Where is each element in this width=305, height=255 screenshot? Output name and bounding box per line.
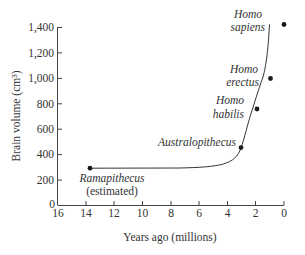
label-homo-sapiens-2: sapiens	[231, 21, 266, 34]
svg-text:10: 10	[137, 207, 149, 219]
label-homo-erectus-1: Homo	[229, 63, 258, 75]
svg-text:0: 0	[281, 207, 287, 219]
svg-text:12: 12	[108, 207, 120, 219]
svg-text:600: 600	[37, 123, 55, 135]
point-homo-erectus	[268, 76, 273, 81]
label-australopithecus: Australopithecus	[157, 136, 236, 149]
point-homo-sapiens	[282, 22, 287, 27]
brain-volume-chart: 1,400 1,200 1,000 800 600 400 200 0 16 1…	[0, 0, 305, 255]
svg-text:1,200: 1,200	[28, 47, 54, 60]
svg-text:4: 4	[225, 207, 231, 219]
y-tick-labels: 1,400 1,200 1,000 800 600 400 200 0	[28, 21, 55, 210]
svg-text:2: 2	[253, 207, 259, 219]
svg-text:400: 400	[37, 148, 55, 160]
svg-text:8: 8	[168, 207, 174, 219]
label-homo-sapiens-1: Homo	[233, 8, 262, 20]
y-axis-title: Brain volume (cm³)	[10, 70, 23, 161]
annotations: Homo sapiens Homo erectus Homo habilis A…	[78, 8, 265, 198]
point-australopithecus	[239, 145, 244, 150]
svg-text:1,400: 1,400	[28, 21, 54, 34]
label-homo-habilis-2: habilis	[213, 108, 245, 120]
x-ticks	[86, 201, 284, 205]
label-ramapithecus-2: (estimated)	[86, 185, 138, 198]
svg-text:1,000: 1,000	[28, 72, 54, 85]
label-homo-habilis-1: Homo	[215, 94, 244, 106]
label-homo-erectus-2: erectus	[226, 76, 259, 88]
x-axis-title: Years ago (millions)	[123, 231, 217, 244]
svg-text:6: 6	[196, 207, 202, 219]
svg-text:14: 14	[80, 207, 92, 219]
label-ramapithecus-1: Ramapithecus	[78, 172, 145, 185]
point-ramapithecus	[88, 166, 93, 171]
svg-text:200: 200	[37, 174, 55, 186]
svg-text:800: 800	[37, 98, 55, 110]
x-tick-labels: 16 14 12 10 8 6 4 2 0	[52, 207, 287, 219]
svg-text:16: 16	[52, 207, 64, 219]
point-homo-habilis	[255, 107, 260, 112]
